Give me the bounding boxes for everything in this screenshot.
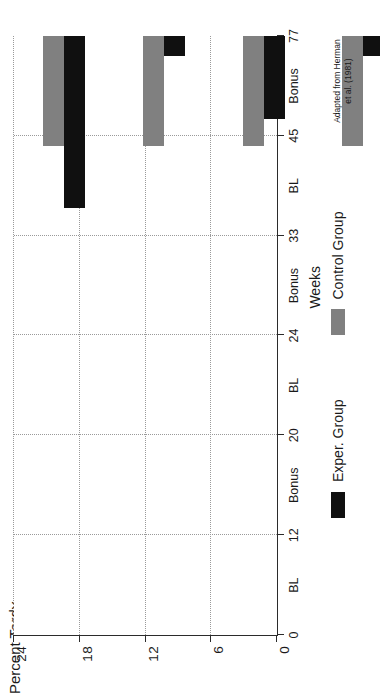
y-axis-tick <box>210 635 211 642</box>
x-axis-week-label: 33 <box>287 229 301 243</box>
legend-swatch-exper-icon <box>331 492 345 518</box>
x-axis-tick <box>277 434 284 435</box>
figure-credit-line-2: et al. (1981) <box>343 6 354 156</box>
bar-exper-3 <box>363 36 380 56</box>
x-axis-week-label: 12 <box>287 528 301 542</box>
x-axis-week-label: 20 <box>287 428 301 442</box>
x-axis-week-label: 77 <box>287 29 301 43</box>
x-axis-category-label: Bonus <box>287 468 301 503</box>
legend-swatch-control-icon <box>331 310 345 336</box>
bar-exper-1 <box>164 36 185 56</box>
gridline-vertical <box>14 534 277 535</box>
bar-exper-2 <box>264 36 285 119</box>
x-axis-week-label: 24 <box>287 329 301 343</box>
gridline-horizontal <box>210 36 211 635</box>
plot-area: 061218240BL12Bonus20BL24Bonus33BL45Bonus… <box>14 36 278 636</box>
gridline-vertical <box>14 235 277 236</box>
bar-control-1 <box>143 36 164 146</box>
legend-item-control: Control Group <box>330 212 346 336</box>
x-axis-week-label: 45 <box>287 129 301 143</box>
chart-legend: Exper. Group Control Group <box>330 212 346 518</box>
x-axis-category-label: Bonus <box>287 268 301 303</box>
y-axis-tick <box>79 635 80 642</box>
legend-label-control: Control Group <box>330 212 346 300</box>
x-axis-tick <box>277 235 284 236</box>
gridline-horizontal <box>13 36 14 635</box>
legend-label-exper: Exper. Group <box>330 400 346 483</box>
gridline-vertical <box>14 335 277 336</box>
x-axis-week-label: 0 <box>287 632 301 639</box>
legend-item-exper: Exper. Group <box>330 400 346 519</box>
x-axis-tick <box>277 534 284 535</box>
figure-credit: Adapted from Herman et al. (1981) <box>332 6 353 156</box>
bar-control-2 <box>243 36 264 146</box>
x-axis-tick <box>277 634 284 635</box>
x-axis-category-label: BL <box>287 178 301 193</box>
y-axis-tick <box>276 635 277 642</box>
gridline-vertical <box>14 434 277 435</box>
bar-control-0 <box>43 36 64 146</box>
chart-figure: Percent Tardy 061218240BL12Bonus20BL24Bo… <box>0 0 380 698</box>
y-axis-tick <box>13 635 14 642</box>
figure-credit-line-1: Adapted from Herman <box>332 6 343 156</box>
x-axis-tick <box>277 335 284 336</box>
y-axis-tick <box>145 635 146 642</box>
x-axis-title: Weeks <box>307 266 323 309</box>
x-axis-category-label: BL <box>287 577 301 592</box>
x-axis-tick <box>277 135 284 136</box>
x-axis-category-label: BL <box>287 378 301 393</box>
x-axis-category-label: Bonus <box>287 68 301 103</box>
bar-exper-0 <box>64 36 85 208</box>
